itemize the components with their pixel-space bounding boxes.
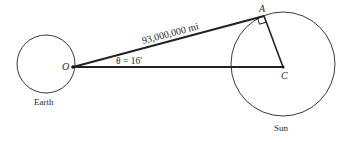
label-a: A [258,3,266,14]
line-ac [264,16,283,67]
sun-label: Sun [274,123,289,133]
line-oa [73,16,264,67]
earth-sun-diagram: O A C 93,000,000 mi θ = 16′ Earth Sun [0,0,356,142]
sun-circle [231,12,335,116]
angle-label: θ = 16′ [116,56,142,66]
distance-label: 93,000,000 mi [141,20,200,46]
point-c [282,66,285,69]
point-o [71,65,75,69]
label-c: C [281,70,288,81]
earth-label: Earth [34,97,54,107]
label-o: O [62,61,69,72]
